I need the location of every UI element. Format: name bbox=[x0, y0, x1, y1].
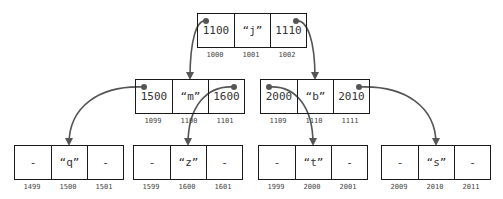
cell-left-pointer: - bbox=[382, 146, 418, 179]
address-label: 2001 bbox=[330, 183, 366, 191]
address-label: 1601 bbox=[205, 183, 241, 191]
addresses-mid-left: 1099 1100 1101 bbox=[135, 117, 243, 125]
cell-value: “s” bbox=[418, 146, 454, 179]
cell-value: “t” bbox=[295, 146, 331, 179]
pointer-arrow bbox=[359, 87, 436, 144]
cell-value: “j” bbox=[234, 14, 270, 47]
cell-left-pointer: 1500 bbox=[136, 80, 172, 113]
address-label: 1999 bbox=[258, 183, 294, 191]
cell-right-pointer: - bbox=[87, 146, 123, 179]
address-label: 2011 bbox=[453, 183, 489, 191]
cell-right-pointer: 1600 bbox=[208, 80, 244, 113]
cell-right-pointer: 1110 bbox=[270, 14, 306, 47]
addresses-leaf-s: 2009 2010 2011 bbox=[381, 183, 489, 191]
node-leaf-t: - “t” - bbox=[258, 145, 368, 180]
address-label: 1101 bbox=[207, 117, 243, 125]
cell-right-pointer: - bbox=[331, 146, 367, 179]
address-label: 1111 bbox=[332, 117, 368, 125]
address-label: 1001 bbox=[233, 51, 269, 59]
address-label: 1599 bbox=[133, 183, 169, 191]
address-label: 1000 bbox=[197, 51, 233, 59]
address-label: 2009 bbox=[381, 183, 417, 191]
cell-right-pointer: - bbox=[206, 146, 242, 179]
addresses-leaf-t: 1999 2000 2001 bbox=[258, 183, 366, 191]
node-root: 1100 “j” 1110 bbox=[197, 13, 307, 48]
cell-left-pointer: 1100 bbox=[198, 14, 234, 47]
node-leaf-z: - “z” - bbox=[133, 145, 243, 180]
cell-right-pointer: - bbox=[454, 146, 490, 179]
node-leaf-s: - “s” - bbox=[381, 145, 491, 180]
cell-left-pointer: - bbox=[259, 146, 295, 179]
cell-left-pointer: 2000 bbox=[261, 80, 297, 113]
cell-right-pointer: 2010 bbox=[333, 80, 369, 113]
address-label: 1501 bbox=[86, 183, 122, 191]
cell-left-pointer: - bbox=[134, 146, 170, 179]
cell-value: “z” bbox=[170, 146, 206, 179]
addresses-mid-right: 1109 1110 1111 bbox=[260, 117, 368, 125]
address-label: 2000 bbox=[294, 183, 330, 191]
addresses-leaf-q: 1499 1500 1501 bbox=[14, 183, 122, 191]
cell-left-pointer: - bbox=[15, 146, 51, 179]
address-label: 1002 bbox=[269, 51, 305, 59]
address-label: 2010 bbox=[417, 183, 453, 191]
address-label: 1099 bbox=[135, 117, 171, 125]
pointer-arrow bbox=[69, 87, 144, 144]
cell-value: “m” bbox=[172, 80, 208, 113]
address-label: 1500 bbox=[50, 183, 86, 191]
addresses-leaf-z: 1599 1600 1601 bbox=[133, 183, 241, 191]
node-leaf-q: - “q” - bbox=[14, 145, 124, 180]
cell-value: “b” bbox=[297, 80, 333, 113]
address-label: 1109 bbox=[260, 117, 296, 125]
address-label: 1110 bbox=[296, 117, 332, 125]
addresses-root: 1000 1001 1002 bbox=[197, 51, 305, 59]
address-label: 1600 bbox=[169, 183, 205, 191]
node-mid-right: 2000 “b” 2010 bbox=[260, 79, 370, 114]
address-label: 1100 bbox=[171, 117, 207, 125]
address-label: 1499 bbox=[14, 183, 50, 191]
node-mid-left: 1500 “m” 1600 bbox=[135, 79, 245, 114]
cell-value: “q” bbox=[51, 146, 87, 179]
